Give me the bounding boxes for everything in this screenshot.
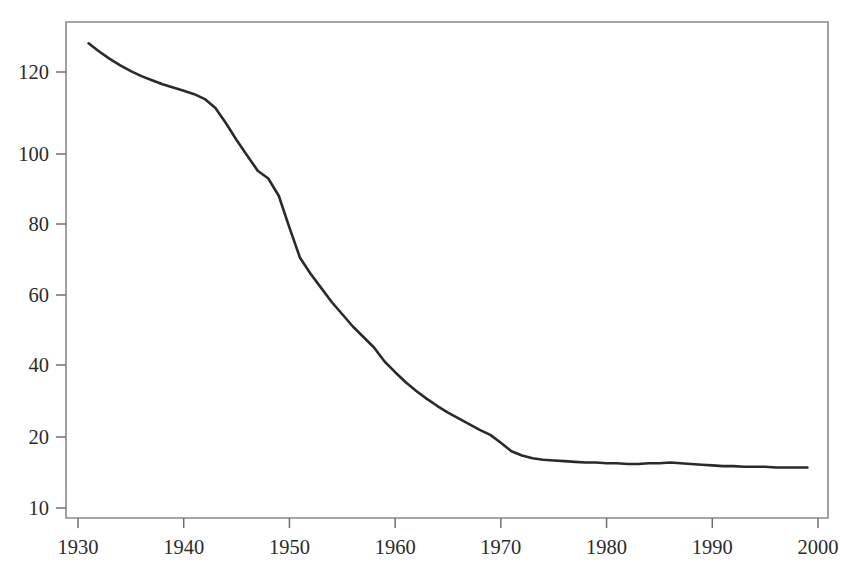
chart-background: [0, 0, 860, 576]
x-tick-label: 1970: [480, 536, 521, 558]
x-tick-label: 1990: [692, 536, 733, 558]
y-tick-label: 20: [29, 426, 50, 448]
line-chart: 1201008060402010 19301940195019601970198…: [0, 0, 860, 576]
y-tick-label: 80: [29, 213, 50, 235]
x-tick-label: 1960: [375, 536, 416, 558]
y-tick-label: 60: [29, 284, 50, 306]
x-tick-label: 1930: [58, 536, 99, 558]
chart-screenshot: 1201008060402010 19301940195019601970198…: [0, 0, 860, 576]
y-tick-label: 10: [29, 497, 50, 519]
x-tick-label: 2000: [798, 536, 839, 558]
y-tick-label: 100: [18, 143, 49, 165]
y-tick-label: 40: [29, 354, 50, 376]
x-tick-label: 1980: [586, 536, 627, 558]
x-tick-label: 1940: [163, 536, 204, 558]
x-tick-label: 1950: [269, 536, 310, 558]
y-tick-label: 120: [18, 61, 49, 83]
